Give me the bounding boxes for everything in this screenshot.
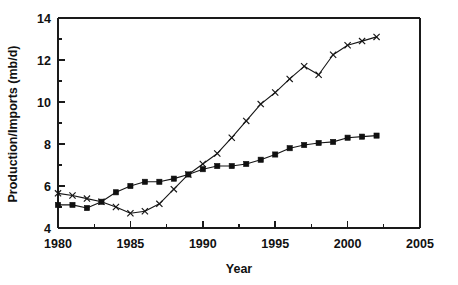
data-point-marker [244, 161, 249, 166]
y-tick-label: 14 [37, 12, 51, 26]
x-tick-label: 1985 [116, 237, 144, 251]
data-point-marker [345, 135, 350, 140]
data-point-marker [200, 167, 205, 172]
data-point-marker [302, 142, 307, 147]
data-point-marker [142, 179, 147, 184]
x-tick-label: 2005 [406, 237, 434, 251]
data-point-marker [273, 152, 278, 157]
y-tick-label: 8 [44, 138, 51, 152]
line-chart-svg: Production/Imports (mb/d) Year 468101214… [0, 0, 458, 285]
data-point-marker [157, 179, 162, 184]
data-point-marker [229, 163, 234, 168]
y-tick-label: 6 [44, 180, 51, 194]
data-point-marker [215, 163, 220, 168]
y-tick-label: 4 [44, 222, 51, 236]
data-point-marker [55, 202, 60, 207]
x-tick-label: 2000 [334, 237, 362, 251]
x-axis-title-text: Year [226, 262, 253, 276]
data-point-marker [316, 140, 321, 145]
x-axis-title: Year [226, 262, 253, 276]
x-tick-label: 1980 [44, 237, 72, 251]
data-point-marker [171, 176, 176, 181]
data-point-marker [113, 190, 118, 195]
data-point-marker [84, 205, 89, 210]
x-tick-label: 1990 [189, 237, 217, 251]
data-point-marker [128, 183, 133, 188]
data-point-marker [70, 202, 75, 207]
chart-figure: Production/Imports (mb/d) Year 468101214… [0, 0, 458, 285]
data-point-marker [331, 139, 336, 144]
data-point-marker [374, 133, 379, 138]
data-point-marker [359, 134, 364, 139]
data-point-marker [287, 146, 292, 151]
y-axis-title: Production/Imports (mb/d) [6, 46, 20, 203]
y-tick-label: 10 [37, 96, 51, 110]
x-tick-label: 1995 [261, 237, 289, 251]
y-axis-title-text: Production/Imports (mb/d) [6, 46, 20, 203]
data-point-marker [258, 157, 263, 162]
y-tick-label: 12 [37, 54, 51, 68]
